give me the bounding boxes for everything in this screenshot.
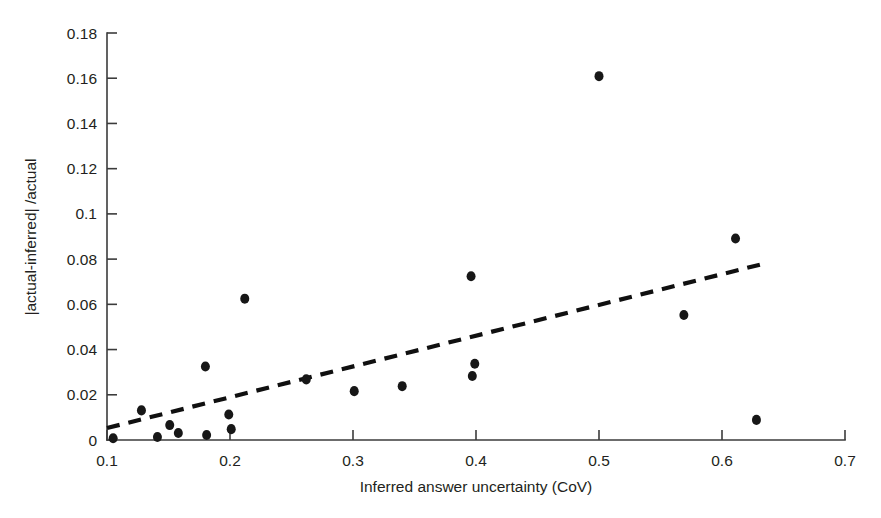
data-point <box>752 415 761 425</box>
scatter-plot-canvas: 00.020.040.060.080.10.120.140.160.18 0.1… <box>0 0 881 518</box>
data-point <box>468 371 477 381</box>
data-point <box>398 381 407 391</box>
y-tick-label: 0.16 <box>67 70 97 87</box>
x-tick-label: 0.3 <box>342 452 364 469</box>
y-tick-label: 0.02 <box>67 386 97 403</box>
y-axis-ticks <box>107 33 117 440</box>
y-tick-label: 0.1 <box>75 205 97 222</box>
y-tick-label: 0.06 <box>67 296 97 313</box>
data-point <box>174 428 183 438</box>
y-tick-label: 0.04 <box>67 341 98 358</box>
x-tick-label: 0.4 <box>465 452 487 469</box>
data-point <box>595 71 604 81</box>
x-tick-label: 0.5 <box>588 452 610 469</box>
data-point <box>153 432 162 442</box>
y-axis-title: |actual-inferred| /actual <box>22 158 39 315</box>
data-point <box>224 409 233 419</box>
data-point <box>137 405 146 415</box>
data-point <box>467 271 476 281</box>
y-tick-label: 0.08 <box>67 251 97 268</box>
trendline-dashed <box>107 264 761 428</box>
y-axis-tick-labels: 00.020.040.060.080.10.120.140.160.18 <box>67 25 98 449</box>
data-point <box>679 310 688 320</box>
x-axis-tick-labels: 0.10.20.30.40.50.60.7 <box>96 452 856 469</box>
x-tick-label: 0.2 <box>219 452 241 469</box>
x-tick-label: 0.1 <box>96 452 118 469</box>
x-axis-title: Inferred answer uncertainty (CoV) <box>360 478 593 495</box>
data-point <box>202 430 211 440</box>
data-points-group <box>109 71 761 443</box>
y-tick-label: 0.14 <box>67 115 98 132</box>
y-tick-label: 0.18 <box>67 25 97 42</box>
y-tick-label: 0 <box>88 432 97 449</box>
data-point <box>201 361 210 371</box>
scatter-chart-figure: 00.020.040.060.080.10.120.140.160.18 0.1… <box>0 0 881 518</box>
data-point <box>227 424 236 434</box>
data-point <box>240 294 249 304</box>
data-point <box>350 386 359 396</box>
x-tick-label: 0.7 <box>834 452 856 469</box>
x-axis-ticks <box>107 430 845 440</box>
data-point <box>731 233 740 243</box>
data-point <box>109 433 118 443</box>
data-point <box>165 420 174 430</box>
y-tick-label: 0.12 <box>67 160 97 177</box>
data-point <box>470 359 479 369</box>
data-point <box>302 374 311 384</box>
x-tick-label: 0.6 <box>711 452 733 469</box>
